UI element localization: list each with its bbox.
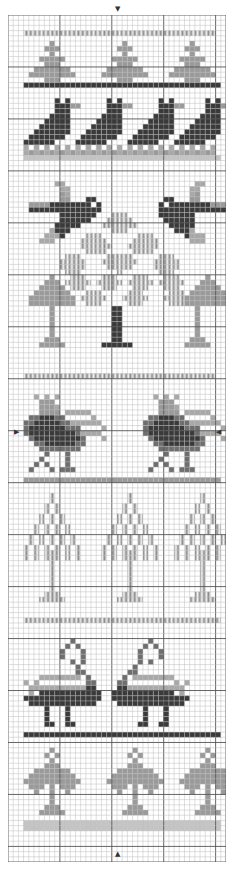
stitch-cell [216,529,221,534]
stitch-cell [195,810,200,815]
stitch-cell [184,129,189,134]
stitch-cell [91,618,96,623]
stitch-cell [210,826,215,831]
stitch-cell [39,135,44,140]
stitch-cell [127,820,132,825]
stitch-cell [24,680,29,685]
stitch-cell [75,436,80,441]
stitch-cell [127,296,132,301]
stitch-cell [184,784,189,789]
stitch-cell [205,410,210,415]
stitch-cell [133,545,138,550]
stitch-cell [34,207,39,212]
stitch-cell [221,436,226,441]
stitch-cell [55,337,60,342]
stitch-cell [44,462,49,467]
stitch-cell [70,212,75,217]
stitch-cell [34,462,39,467]
stitch-cell [112,223,117,228]
stitch-cell [117,83,122,88]
stitch-cell [24,732,29,737]
stitch-cell [24,779,29,784]
stitch-cell [200,436,205,441]
stitch-cell [174,415,179,420]
stitch-cell [164,701,169,706]
stitch-cell [44,410,49,415]
stitch-cell [200,597,205,602]
stitch-cell [216,114,221,119]
stitch-cell [117,228,122,233]
stitch-cell [86,249,91,254]
stitch-cell [65,696,70,701]
stitch-cell [65,83,70,88]
stitch-cell [148,789,153,794]
stitch-cell [195,233,200,238]
stitch-cell [133,135,138,140]
stitch-cell [200,67,205,72]
stitch-cell [122,555,127,560]
stitch-cell [164,420,169,425]
stitch-cell [60,446,65,451]
stitch-cell [143,285,148,290]
stitch-cell [112,124,117,129]
stitch-cell [133,150,138,155]
stitch-cell [200,83,205,88]
stitch-cell [86,218,91,223]
stitch-cell [60,420,65,425]
stitch-cell [39,67,44,72]
stitch-cell [210,129,215,134]
stitch-cell [138,244,143,249]
stitch-cell [195,410,200,415]
stitch-cell [179,103,184,108]
stitch-cell [195,186,200,191]
stitch-cell [50,768,55,773]
stitch-cell [184,826,189,831]
stitch-cell [174,223,179,228]
stitch-cell [50,597,55,602]
stitch-cell [55,529,60,534]
stitch-cell [190,135,195,140]
stitch-cell [122,103,127,108]
stitch-cell [159,400,164,405]
stitch-cell [133,794,138,799]
stitch-cell [205,98,210,103]
stitch-cell [210,779,215,784]
stitch-cell [39,342,44,347]
stitch-cell [179,415,184,420]
stitch-cell [101,114,106,119]
stitch-cell [179,83,184,88]
stitch-cell [60,119,65,124]
stitch-cell [205,202,210,207]
stitch-cell [96,135,101,140]
stitch-cell [101,140,106,145]
stitch-cell [112,322,117,327]
stitch-cell [174,545,179,550]
stitch-cell [24,820,29,825]
stitch-cell [143,83,148,88]
stitch-cell [138,280,143,285]
stitch-cell [179,441,184,446]
stitch-cell [143,280,148,285]
stitch-cell [50,337,55,342]
stitch-cell [117,264,122,269]
stitch-cell [86,826,91,831]
stitch-cell [159,415,164,420]
stitch-cell [164,717,169,722]
stitch-cell [153,820,158,825]
stitch-cell [70,639,75,644]
stitch-cell [184,446,189,451]
stitch-cell [221,535,226,540]
stitch-cell [200,535,205,540]
stitch-cell [174,150,179,155]
stitch-cell [34,301,39,306]
stitch-cell [122,264,127,269]
stitch-cell [205,758,210,763]
stitch-cell [200,337,205,342]
stitch-cell [133,826,138,831]
stitch-cell [44,280,49,285]
stitch-cell [153,675,158,680]
pattern-grid [8,15,226,862]
stitch-cell [81,410,86,415]
stitch-cell [195,431,200,436]
stitch-cell [60,129,65,134]
